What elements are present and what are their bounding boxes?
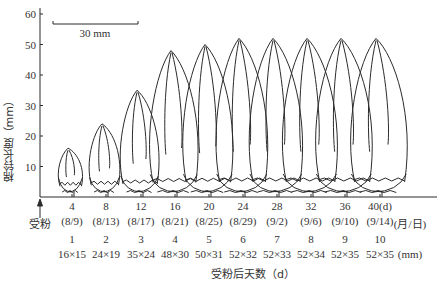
calyx-line — [90, 181, 118, 184]
boll-number: 3 — [138, 233, 144, 245]
boll-suture — [99, 126, 102, 172]
boll-outline — [89, 124, 120, 185]
boll-suture — [103, 126, 110, 169]
day-label: 8 — [103, 200, 109, 212]
boll-suture — [198, 47, 205, 154]
boll-suture — [232, 40, 239, 151]
boll-size: 52×32 — [229, 248, 257, 260]
calyx-line — [59, 182, 81, 185]
boll-suture — [69, 150, 75, 175]
boll-outline — [150, 51, 199, 183]
y-tick-label: 30 — [25, 100, 37, 112]
boll-outline — [183, 45, 233, 183]
boll-number: 9 — [342, 233, 348, 245]
date-label: (8/25) — [196, 215, 223, 227]
boll-suture — [308, 40, 319, 144]
day-label: 20 — [204, 200, 215, 212]
date-label: (8/9) — [61, 215, 82, 227]
date-label: (9/14) — [367, 215, 394, 227]
y-axis-label: 棉铃长度（mm） — [2, 95, 16, 182]
boll-suture — [138, 92, 146, 159]
boll-suture — [377, 40, 389, 144]
boll-5 — [183, 45, 233, 198]
boll-number: 6 — [240, 233, 246, 245]
day-label: 24 — [238, 200, 249, 212]
boll-size: 52×34 — [297, 248, 325, 260]
day-label: 36 — [340, 200, 351, 212]
bract — [373, 174, 406, 192]
boll-number: 10 — [375, 233, 386, 245]
bract — [250, 174, 280, 192]
boll-size: 24×19 — [92, 248, 120, 260]
boll-suture — [172, 53, 182, 148]
boll-number: 1 — [69, 233, 75, 245]
boll-size: 48×30 — [161, 248, 189, 260]
boll-1 — [58, 148, 82, 197]
date-label: (8/13) — [93, 215, 120, 227]
date-label: (8/17) — [128, 215, 155, 227]
boll-suture — [300, 40, 307, 151]
bract — [101, 177, 119, 192]
boll-number: 7 — [274, 233, 280, 245]
boll-2 — [89, 124, 120, 197]
boll-number: 2 — [103, 233, 109, 245]
y-tick-label: 60 — [25, 8, 37, 20]
boll-outline — [316, 38, 373, 182]
day-label: 40(d) — [368, 200, 392, 212]
boll-suture — [165, 53, 171, 155]
day-label: 16 — [170, 200, 181, 212]
boll-size: 35×24 — [127, 248, 155, 260]
pollination-label: 受粉 — [29, 215, 51, 231]
boll-number: 5 — [206, 233, 212, 245]
bract — [169, 175, 198, 193]
boll-suture — [66, 150, 68, 177]
boll-suture — [132, 92, 137, 163]
boll-size: 52×35 — [331, 248, 359, 260]
bract — [283, 174, 314, 192]
dates-unit-label: (月/日) — [394, 215, 426, 231]
day-label: 32 — [306, 200, 317, 212]
day-label: 4 — [69, 200, 75, 212]
boll-outline — [249, 38, 302, 182]
boll-suture — [342, 40, 354, 144]
bract — [121, 176, 143, 192]
boll-size: 52×35 — [366, 248, 394, 260]
date-label: (8/29) — [230, 215, 257, 227]
date-label: (8/21) — [162, 215, 189, 227]
boll-4 — [150, 51, 199, 197]
boll-number: 4 — [172, 233, 178, 245]
date-label: (9/10) — [332, 215, 359, 227]
boll-suture — [274, 40, 285, 144]
y-tick-label: 50 — [25, 39, 37, 51]
scale-bar-label: 30 mm — [80, 27, 111, 39]
boll-outline — [216, 38, 268, 182]
bract — [150, 175, 177, 193]
boll-size: 16×15 — [58, 248, 86, 260]
y-tick-label: 40 — [25, 69, 37, 81]
boll-outline — [351, 38, 408, 182]
y-tick-label: 20 — [25, 130, 37, 142]
date-label: (9/6) — [300, 215, 321, 227]
boll-suture — [206, 47, 216, 147]
boll-8 — [282, 38, 337, 197]
boll-growth-figure: 102030405060 棉铃长度（mm） 30 mm 受粉 481216202… — [0, 0, 440, 283]
boll-number: 8 — [308, 233, 314, 245]
boll-6 — [216, 38, 268, 197]
day-label: 12 — [136, 200, 147, 212]
bract — [90, 177, 107, 192]
pollination-arrow-head — [38, 199, 43, 206]
boll-size: 52×33 — [263, 248, 291, 260]
boll-drawings — [58, 38, 407, 197]
y-tick-label: 10 — [25, 161, 37, 173]
sizes-unit-label: (mm) — [398, 248, 422, 260]
day-label: 28 — [272, 200, 283, 212]
boll-suture — [266, 40, 273, 151]
boll-size: 50×31 — [195, 248, 223, 260]
x-axis-title: 受粉后天数（d） — [211, 265, 295, 281]
bract — [183, 174, 211, 192]
boll-10 — [351, 38, 408, 197]
date-label: (9/2) — [266, 215, 287, 227]
